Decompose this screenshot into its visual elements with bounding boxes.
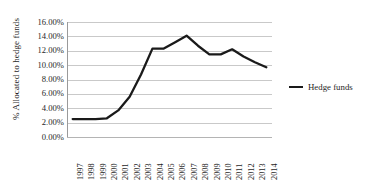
x-axis-tick-label: 2011: [235, 140, 244, 180]
x-axis-tick-labels: 1997199819992000200120022003200420052006…: [67, 140, 272, 192]
x-axis-tick-label: 1999: [99, 140, 108, 180]
x-axis-tick-label: 2012: [247, 140, 256, 180]
x-axis-tick-label: 2008: [201, 140, 210, 180]
y-axis-tick-label: 8.00%: [16, 75, 64, 84]
series-line: [73, 36, 267, 119]
x-axis-tick-label: 1998: [87, 140, 96, 180]
y-axis-tick-label: 0.00%: [16, 133, 64, 142]
plot-area: [67, 22, 272, 137]
x-axis-tick-label: 2003: [144, 140, 153, 180]
x-axis-tick-label: 2004: [156, 140, 165, 180]
gridline: [67, 137, 272, 138]
x-axis-tick-label: 2001: [121, 140, 130, 180]
x-axis-tick-label: 2009: [213, 140, 222, 180]
legend: Hedge funds: [289, 82, 353, 92]
y-axis-tick-labels: 16.00%14.00%12.00%10.00%8.00%6.00%4.00%2…: [16, 16, 64, 141]
line-chart: % Allocated to hedge funds 16.00%14.00%1…: [0, 0, 375, 196]
x-axis-tick-label: 2010: [224, 140, 233, 180]
x-axis-tick-label: 2000: [110, 140, 119, 180]
y-axis-tick-label: 16.00%: [16, 18, 64, 27]
x-axis-tick-label: 2007: [190, 140, 199, 180]
x-axis-tick-label: 2006: [178, 140, 187, 180]
legend-item-label: Hedge funds: [308, 82, 353, 92]
y-axis-tick-label: 10.00%: [16, 61, 64, 70]
y-axis-tick-label: 6.00%: [16, 89, 64, 98]
series-hedge-funds: [67, 22, 272, 137]
legend-line-swatch-icon: [289, 86, 303, 89]
y-axis-tick-label: 4.00%: [16, 104, 64, 113]
x-axis-tick-label: 2005: [167, 140, 176, 180]
x-axis-tick-label: 2002: [133, 140, 142, 180]
x-axis-tick-label: 1997: [76, 140, 85, 180]
x-axis-tick-label: 2014: [270, 140, 279, 180]
y-axis-tick-label: 14.00%: [16, 32, 64, 41]
y-axis-tick-label: 12.00%: [16, 46, 64, 55]
x-axis-tick-label: 2013: [258, 140, 267, 180]
y-axis-tick-label: 2.00%: [16, 118, 64, 127]
